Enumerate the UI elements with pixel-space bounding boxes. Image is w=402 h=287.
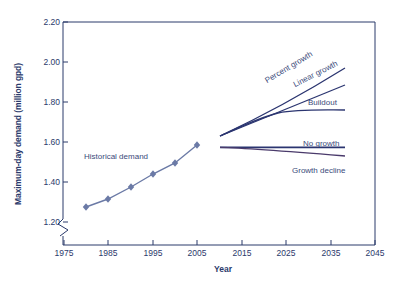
series-growth-decline <box>220 147 345 156</box>
chart-container: Maximum-day demand (million gpd) 2.20 2.… <box>0 0 402 287</box>
series-buildout <box>220 110 345 136</box>
historical-markers <box>83 141 200 211</box>
x-axis-ticks <box>64 240 375 245</box>
y-axis-ticks <box>63 22 68 222</box>
series-percent-growth <box>220 68 345 136</box>
chart-plot-svg <box>0 0 402 287</box>
plot-frame <box>63 22 375 245</box>
series-historical-demand <box>83 141 200 211</box>
